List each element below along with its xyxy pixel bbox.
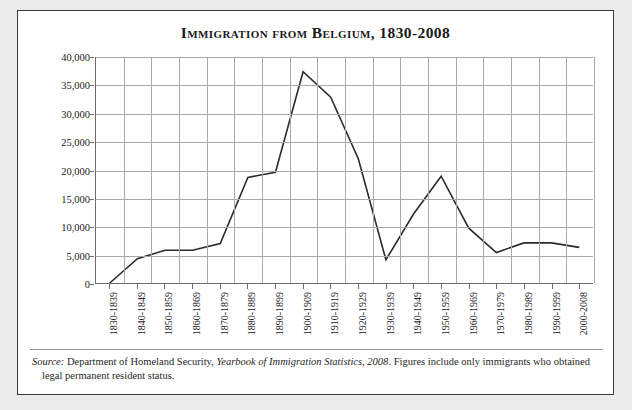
gridline-vertical <box>428 57 429 283</box>
x-axis-tick-mark <box>496 284 497 289</box>
chart-title: Immigration from Belgium, 1830-2008 <box>18 24 613 42</box>
gridline-vertical <box>539 57 540 283</box>
x-axis-tick-mark <box>358 284 359 289</box>
x-axis-tick-labels: 1830-18391840-18491850-18591860-18691870… <box>95 292 593 362</box>
x-axis-tick-label: 1840-1849 <box>136 292 148 362</box>
y-axis-tick-mark <box>90 142 94 143</box>
plot-area <box>95 57 593 284</box>
gridline-vertical <box>400 57 401 283</box>
gridline-vertical <box>511 57 512 283</box>
y-axis-tick-label: 20,000 <box>61 165 90 176</box>
gridline-vertical <box>179 57 180 283</box>
source-agency: Department of Homeland Security, <box>67 356 214 367</box>
x-axis-tick-label: 1910-1919 <box>329 292 341 362</box>
x-axis-tick-mark <box>275 284 276 289</box>
y-axis-tick-mark <box>90 57 94 58</box>
source-note: Source: Department of Homeland Security,… <box>32 355 610 383</box>
y-axis-tick-label: 10,000 <box>61 222 90 233</box>
x-axis-tick-mark <box>247 284 248 289</box>
gridline-vertical <box>151 57 152 283</box>
x-axis-tick-mark <box>220 284 221 289</box>
y-axis-tick-mark <box>90 284 94 285</box>
y-axis-tick-mark <box>90 256 94 257</box>
source-publication: Yearbook of Immigration Statistics, 2008 <box>216 356 388 367</box>
x-axis-tick-mark <box>413 284 414 289</box>
x-axis-tick-mark <box>524 284 525 289</box>
x-axis-tick-mark <box>109 284 110 289</box>
x-axis-tick-mark <box>303 284 304 289</box>
y-axis-tick-labels: 05,00010,00015,00020,00025,00030,00035,0… <box>18 57 90 284</box>
x-axis-tick-label: 1940-1949 <box>412 292 424 362</box>
source-divider <box>30 349 603 350</box>
x-axis-tick-label: 1970-1979 <box>495 292 507 362</box>
y-axis-tick-label: 40,000 <box>61 52 90 63</box>
x-axis-tick-label: 1980-1989 <box>523 292 535 362</box>
gridline-vertical <box>207 57 208 283</box>
y-axis-tick-label: 35,000 <box>61 80 90 91</box>
gridline-vertical <box>262 57 263 283</box>
y-axis-tick-mark <box>90 171 94 172</box>
x-axis-tick-mark <box>552 284 553 289</box>
x-axis-tick-label: 1850-1859 <box>163 292 175 362</box>
plot-right-edge <box>594 57 595 283</box>
y-axis-tick-mark <box>90 114 94 115</box>
source-prefix: Source: <box>32 356 64 367</box>
x-axis-tick-mark <box>164 284 165 289</box>
x-axis-tick-label: 1860-1869 <box>191 292 203 362</box>
y-axis-tick-mark <box>90 85 94 86</box>
chart-figure: Immigration from Belgium, 1830-2008 Tota… <box>17 10 614 395</box>
y-axis-tick-label: 25,000 <box>61 137 90 148</box>
y-axis-tick-mark <box>90 199 94 200</box>
x-axis-tick-mark <box>137 284 138 289</box>
x-axis-tick-mark <box>386 284 387 289</box>
plot-top-edge <box>96 57 593 58</box>
x-axis-tick-label: 1950-1959 <box>440 292 452 362</box>
x-axis-tick-mark <box>192 284 193 289</box>
gridline-vertical <box>483 57 484 283</box>
gridline-vertical <box>290 57 291 283</box>
gridline-vertical <box>317 57 318 283</box>
gridline-vertical <box>124 57 125 283</box>
x-axis-tick-label: 1990-1999 <box>551 292 563 362</box>
x-axis-tick-label: 1960-1969 <box>468 292 480 362</box>
y-axis-tick-mark <box>90 227 94 228</box>
y-axis-tick-label: 5,000 <box>66 250 90 261</box>
gridline-vertical <box>456 57 457 283</box>
x-axis-tick-label: 1880-1889 <box>246 292 258 362</box>
x-axis-tick-label: 2000-2008 <box>578 292 590 362</box>
y-axis-tick-label: 30,000 <box>61 108 90 119</box>
gridline-vertical <box>345 57 346 283</box>
x-axis-tick-mark <box>441 284 442 289</box>
x-axis-tick-label: 1920-1929 <box>357 292 369 362</box>
x-axis-tick-mark <box>579 284 580 289</box>
gridline-vertical <box>373 57 374 283</box>
x-axis-tick-label: 1830-1839 <box>108 292 120 362</box>
x-axis-tick-marks <box>95 284 593 290</box>
x-axis-tick-label: 1900-1909 <box>302 292 314 362</box>
y-axis-tick-label: 15,000 <box>61 193 90 204</box>
gridline-vertical <box>566 57 567 283</box>
x-axis-tick-mark <box>469 284 470 289</box>
x-axis-tick-label: 1930-1939 <box>385 292 397 362</box>
x-axis-tick-label: 1890-1899 <box>274 292 286 362</box>
x-axis-tick-label: 1870-1879 <box>219 292 231 362</box>
x-axis-tick-mark <box>330 284 331 289</box>
gridline-vertical <box>234 57 235 283</box>
